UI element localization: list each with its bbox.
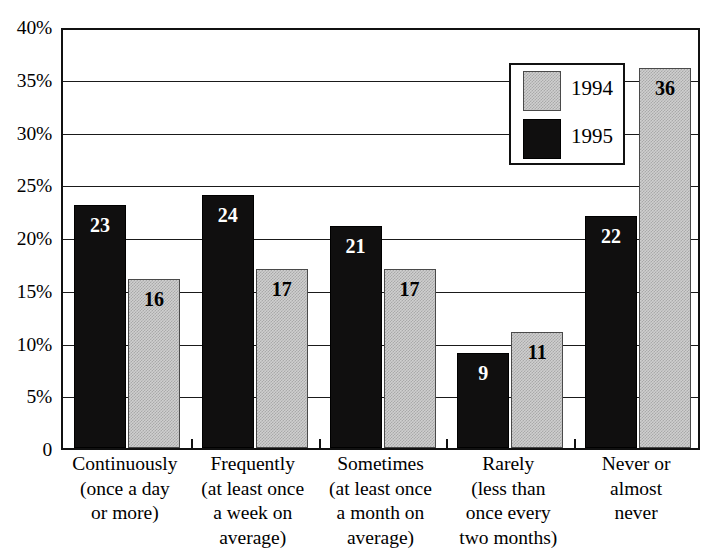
plot-area: 2316241721179112236 19941995 bbox=[61, 28, 700, 450]
x-axis-category-line: never bbox=[568, 501, 704, 526]
bar-chart: 40%35%30%25%20%15%10%5%0 231624172117911… bbox=[0, 0, 716, 558]
legend-item-1994: 1994 bbox=[511, 68, 623, 115]
x-axis-category-line: (at least once bbox=[185, 477, 321, 502]
bar-1995-4: 22 bbox=[585, 216, 637, 448]
x-axis-category-line: (less than bbox=[440, 477, 576, 502]
x-axis-category-line: Sometimes bbox=[313, 452, 449, 477]
y-axis-tick-label: 30% bbox=[17, 124, 52, 144]
bar-1994-4: 36 bbox=[639, 68, 691, 448]
x-axis: Continuously(once a dayor more)Frequentl… bbox=[61, 452, 700, 558]
x-axis-category-line: two months) bbox=[440, 526, 576, 551]
x-axis-category-line: a week on bbox=[185, 501, 321, 526]
y-axis: 40%35%30%25%20%15%10%5%0 bbox=[0, 0, 58, 470]
x-axis-category-line: Frequently bbox=[185, 452, 321, 477]
legend: 19941995 bbox=[509, 63, 625, 165]
legend-label-1995: 1995 bbox=[571, 126, 613, 147]
bar-value-label: 36 bbox=[640, 78, 690, 98]
x-axis-category-label-2: Sometimes(at least oncea month onaverage… bbox=[313, 452, 449, 550]
x-axis-category-line: (at least once bbox=[313, 477, 449, 502]
gridline bbox=[63, 186, 698, 187]
x-axis-category-line: average) bbox=[313, 526, 449, 551]
bar-value-label: 16 bbox=[129, 289, 179, 309]
y-axis-tick-label: 10% bbox=[17, 335, 52, 355]
x-axis-category-line: Never or bbox=[568, 452, 704, 477]
y-axis-tick-label: 25% bbox=[17, 176, 52, 196]
x-axis-category-line: (once a day bbox=[57, 477, 193, 502]
bar-value-label: 17 bbox=[257, 279, 307, 299]
legend-swatch-1995 bbox=[523, 119, 561, 159]
x-axis-tick bbox=[319, 439, 321, 448]
x-axis-category-line: or more) bbox=[57, 501, 193, 526]
x-axis-category-line: a month on bbox=[313, 501, 449, 526]
bar-value-label: 17 bbox=[385, 279, 435, 299]
bar-1994-2: 17 bbox=[384, 269, 436, 448]
legend-item-1995: 1995 bbox=[511, 116, 623, 163]
x-axis-tick bbox=[446, 439, 448, 448]
bar-1994-3: 11 bbox=[511, 332, 563, 448]
x-axis-category-line: almost bbox=[568, 477, 704, 502]
x-axis-tick bbox=[574, 439, 576, 448]
x-axis-category-label-1: Frequently(at least oncea week onaverage… bbox=[185, 452, 321, 550]
bar-value-label: 22 bbox=[586, 226, 636, 246]
x-axis-category-line: average) bbox=[185, 526, 321, 551]
y-axis-tick-label: 15% bbox=[17, 282, 52, 302]
y-axis-tick-label: 5% bbox=[26, 387, 52, 407]
x-axis-tick bbox=[191, 439, 193, 448]
y-axis-tick-label: 20% bbox=[17, 229, 52, 249]
y-axis-tick-label: 40% bbox=[17, 18, 52, 38]
bar-1995-2: 21 bbox=[330, 226, 382, 448]
x-axis-category-line: once every bbox=[440, 501, 576, 526]
bar-1995-1: 24 bbox=[202, 195, 254, 448]
bar-1994-0: 16 bbox=[128, 279, 180, 448]
bar-value-label: 23 bbox=[75, 215, 125, 235]
legend-label-1994: 1994 bbox=[571, 78, 613, 99]
bar-value-label: 11 bbox=[512, 342, 562, 362]
bar-value-label: 9 bbox=[458, 363, 508, 383]
x-axis-category-label-4: Never oralmostnever bbox=[568, 452, 704, 526]
legend-swatch-1994 bbox=[523, 71, 561, 111]
bar-1995-0: 23 bbox=[74, 205, 126, 448]
x-axis-category-line: Continuously bbox=[57, 452, 193, 477]
bar-1995-3: 9 bbox=[457, 353, 509, 448]
bar-value-label: 21 bbox=[331, 236, 381, 256]
y-axis-tick-label: 35% bbox=[17, 71, 52, 91]
x-axis-category-label-3: Rarely(less thanonce everytwo months) bbox=[440, 452, 576, 550]
x-axis-category-label-0: Continuously(once a dayor more) bbox=[57, 452, 193, 526]
x-axis-category-line: Rarely bbox=[440, 452, 576, 477]
bar-1994-1: 17 bbox=[256, 269, 308, 448]
bar-value-label: 24 bbox=[203, 205, 253, 225]
scan-artifact-sliver bbox=[0, 0, 716, 6]
y-axis-tick-label: 0 bbox=[42, 440, 52, 460]
